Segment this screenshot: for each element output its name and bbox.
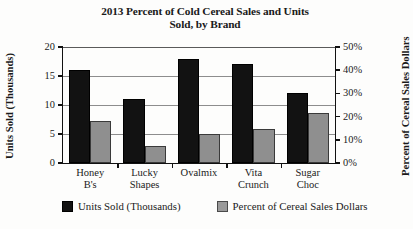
y-axis-left-tick-label: 5 — [50, 129, 55, 139]
y-axis-right-tick — [335, 93, 340, 95]
bar-percent-sales — [308, 113, 329, 163]
bar-units-sold — [69, 70, 90, 163]
x-axis-category-label: Lucky Shapes — [117, 167, 171, 191]
bar-units-sold — [178, 59, 199, 163]
y-axis-left-tick-label: 0 — [50, 158, 55, 168]
bar-group — [123, 47, 165, 163]
y-axis-left-tick-label: 15 — [45, 71, 55, 81]
bar-units-sold — [232, 64, 253, 163]
y-axis-right-tick — [335, 116, 340, 118]
y-axis-left-tick — [58, 104, 63, 106]
bar-group — [69, 47, 111, 163]
x-axis-category-label: Honey B's — [63, 167, 117, 191]
bar-group — [178, 47, 220, 163]
y-axis-right-tick-label: 10% — [343, 135, 362, 145]
bar-percent-sales — [253, 129, 274, 163]
chart-legend: Units Sold (Thousands) Percent of Cereal… — [62, 198, 407, 214]
y-axis-right-title: Percent of Cereal Sales Dollars — [400, 38, 411, 174]
plot-area: 051015200%10%20%30%40%50%Honey B'sLucky … — [62, 47, 336, 164]
y-axis-right-tick — [335, 46, 340, 48]
legend-swatch-percent-sales — [217, 201, 228, 212]
chart-title-line-1: 2013 Percent of Cold Cereal Sales and Un… — [60, 5, 350, 18]
legend-item-units-sold: Units Sold (Thousands) — [62, 200, 181, 212]
y-axis-left-tick-label: 10 — [45, 100, 55, 110]
bar-percent-sales — [199, 134, 220, 163]
bar-percent-sales — [90, 121, 111, 163]
y-axis-right-tick-label: 30% — [343, 88, 362, 98]
y-axis-left-tick — [58, 46, 63, 48]
cereal-sales-bar-chart: 2013 Percent of Cold Cereal Sales and Un… — [0, 0, 413, 229]
y-axis-left-tick — [58, 162, 63, 164]
y-axis-right-tick-label: 0% — [343, 158, 357, 168]
legend-item-percent-sales: Percent of Cereal Sales Dollars — [217, 200, 368, 212]
y-axis-right-tick — [335, 139, 340, 141]
y-axis-left-title: Units Sold (Thousands) — [4, 47, 15, 165]
y-axis-right-tick-label: 40% — [343, 65, 362, 75]
legend-swatch-units-sold — [62, 201, 73, 212]
bar-units-sold — [123, 99, 144, 163]
y-axis-left-tick — [58, 133, 63, 135]
bar-group — [232, 47, 274, 163]
y-axis-left-tick-label: 20 — [45, 42, 55, 52]
legend-label-units-sold: Units Sold (Thousands) — [78, 200, 181, 212]
x-axis-category-label: Ovalmix — [172, 167, 226, 179]
x-axis-category-label: Sugar Choc — [281, 167, 335, 191]
bar-group — [287, 47, 329, 163]
y-axis-right-tick — [335, 69, 340, 71]
x-axis-category-label: Vita Crunch — [226, 167, 280, 191]
legend-label-percent-sales: Percent of Cereal Sales Dollars — [233, 200, 368, 212]
chart-title-line-2: Sold, by Brand — [60, 18, 350, 31]
y-axis-right-tick — [335, 162, 340, 164]
chart-title: 2013 Percent of Cold Cereal Sales and Un… — [60, 5, 350, 31]
y-axis-left-tick — [58, 75, 63, 77]
y-axis-right-tick-label: 20% — [343, 112, 362, 122]
bar-percent-sales — [145, 146, 166, 163]
y-axis-right-tick-label: 50% — [343, 42, 362, 52]
bar-units-sold — [287, 93, 308, 163]
